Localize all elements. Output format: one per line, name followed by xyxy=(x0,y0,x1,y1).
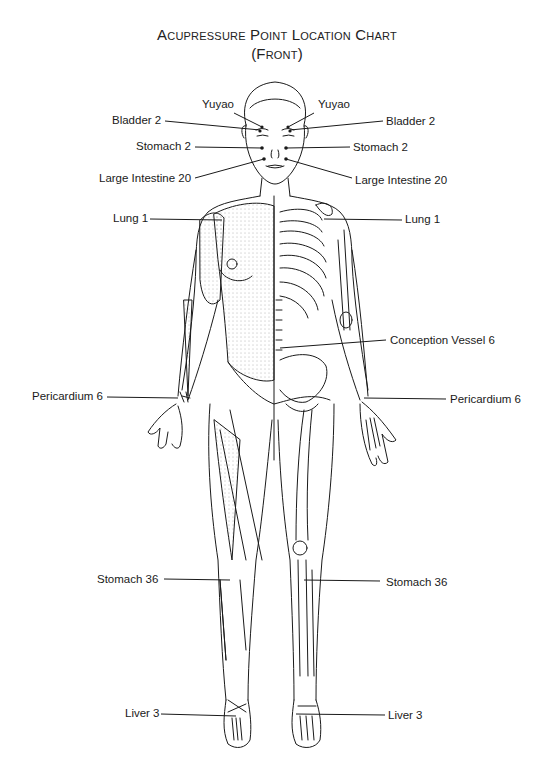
label-li20-right: Large Intestine 20 xyxy=(355,174,447,187)
right-leg xyxy=(278,404,334,747)
label-pericardium6-right: Pericardium 6 xyxy=(450,393,521,406)
label-conception-vessel-6: Conception Vessel 6 xyxy=(390,334,495,347)
label-bladder2-right: Bladder 2 xyxy=(386,115,435,128)
label-li20-left: Large Intestine 20 xyxy=(99,172,191,185)
label-yuyao-left: Yuyao xyxy=(202,98,234,111)
point-markers xyxy=(258,125,291,160)
label-bladder2-left: Bladder 2 xyxy=(112,114,161,127)
label-lung1-right: Lung 1 xyxy=(405,213,440,226)
label-pericardium6-left: Pericardium 6 xyxy=(32,390,103,403)
label-lung1-left: Lung 1 xyxy=(113,212,148,225)
leader-lines xyxy=(107,113,446,716)
pelvis xyxy=(280,355,327,412)
right-arm xyxy=(332,230,396,466)
ribcage xyxy=(280,203,332,318)
torso xyxy=(182,196,368,460)
label-stomach2-left: Stomach 2 xyxy=(136,140,191,153)
label-stomach2-right: Stomach 2 xyxy=(353,141,408,154)
label-stomach36-right: Stomach 36 xyxy=(386,576,447,589)
label-liver3-left: Liver 3 xyxy=(125,707,160,720)
left-leg xyxy=(209,404,272,747)
label-liver3-right: Liver 3 xyxy=(388,709,423,722)
head xyxy=(242,82,308,196)
label-stomach36-left: Stomach 36 xyxy=(97,573,158,586)
label-yuyao-right: Yuyao xyxy=(318,98,350,111)
body-figure xyxy=(0,0,554,775)
